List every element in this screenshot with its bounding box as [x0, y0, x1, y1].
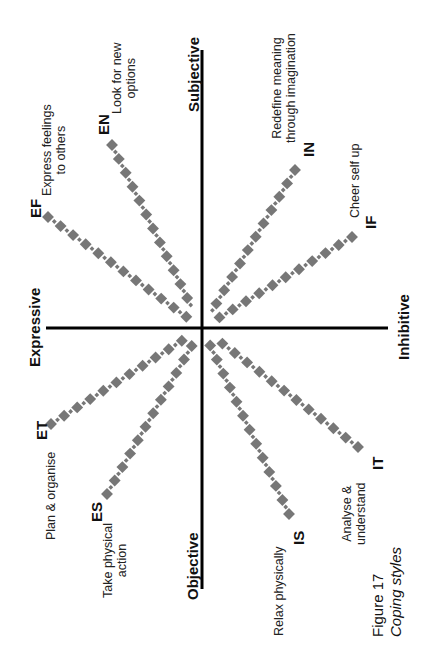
desc-ef: Express feelings to others	[40, 104, 68, 196]
diamond-dot	[258, 217, 270, 229]
small-dot	[250, 434, 255, 439]
small-dot	[244, 420, 249, 425]
diamond-dot	[127, 181, 139, 193]
diamond-dot	[154, 236, 166, 248]
diamond-dot	[155, 394, 167, 406]
diamond-dot	[241, 356, 253, 368]
small-dot	[120, 163, 125, 168]
small-dot	[263, 374, 268, 379]
small-dot	[147, 219, 152, 224]
diamond-dot	[276, 494, 288, 506]
small-dot	[94, 392, 99, 397]
small-dot	[224, 311, 229, 316]
diamond-dot	[306, 255, 318, 267]
diamond-dot	[263, 466, 275, 478]
small-dot	[273, 201, 278, 206]
small-dot	[250, 295, 255, 300]
small-dot	[181, 289, 186, 294]
diamond-dot	[253, 366, 265, 378]
diamond-dot	[242, 244, 254, 256]
small-dot	[116, 471, 121, 476]
desc-es-line2: action	[115, 523, 129, 598]
diamond-dot	[253, 287, 265, 299]
small-dot	[140, 283, 145, 288]
desc-ef-line1: Express feelings	[40, 104, 54, 196]
small-dot	[210, 308, 215, 313]
diamond-dot	[147, 223, 159, 235]
diamond-dot	[174, 278, 186, 290]
small-dot	[154, 233, 159, 238]
small-dot	[68, 409, 73, 414]
small-dot	[281, 188, 286, 193]
small-dot	[77, 237, 82, 242]
diamond-dot	[290, 394, 302, 406]
desc-en-line2: options	[124, 42, 138, 114]
small-dot	[185, 350, 190, 355]
small-dot	[131, 444, 136, 449]
desc-in-line1: Redefine meaning	[270, 33, 284, 143]
desc-in-line2: through imagination	[284, 33, 298, 143]
diamond-dot	[161, 250, 173, 262]
diamond-dot	[289, 164, 301, 176]
small-dot	[52, 219, 57, 224]
axis-label-expressive: Expressive	[26, 288, 43, 367]
desc-en: Look for new options	[110, 42, 138, 114]
small-dot	[170, 377, 175, 382]
diamond-dot	[117, 265, 129, 277]
small-dot	[264, 462, 269, 467]
desc-in: Redefine meaning through imagination	[270, 33, 298, 143]
small-dot	[300, 402, 305, 407]
diamond-dot	[80, 238, 92, 250]
small-dot	[316, 255, 321, 260]
small-dot	[64, 228, 69, 233]
diamond-dot	[257, 452, 269, 464]
diamond-dot	[124, 448, 136, 460]
axis-label-inhibitive: Inhibitive	[395, 294, 412, 360]
small-dot	[152, 292, 157, 297]
small-dot	[147, 359, 152, 364]
desc-if-line1: Cheer self up	[348, 144, 362, 218]
small-dot	[168, 261, 173, 266]
small-dot	[277, 490, 282, 495]
diamond-dot	[109, 475, 121, 487]
diamond-dot	[293, 263, 305, 275]
diamond-dot	[340, 432, 352, 444]
diamond-dot	[140, 209, 152, 221]
diamond-dot	[244, 424, 256, 436]
small-dot	[161, 247, 166, 252]
diamond-dot	[217, 368, 229, 380]
small-dot	[237, 303, 242, 308]
diamond-dot	[352, 441, 364, 453]
code-in: IN	[300, 142, 317, 157]
small-dot	[337, 430, 342, 435]
small-dot	[155, 404, 160, 409]
diamond-dot	[315, 413, 327, 425]
small-dot	[226, 346, 231, 351]
diamond-dot	[333, 239, 345, 251]
small-dot	[162, 391, 167, 396]
small-dot	[120, 376, 125, 381]
diamond-dot	[106, 139, 118, 151]
small-dot	[289, 174, 294, 179]
small-dot	[81, 401, 86, 406]
diamond-dot	[143, 284, 155, 296]
small-dot	[343, 239, 348, 244]
small-dot	[133, 191, 138, 196]
desc-es: Take physical action	[101, 523, 129, 598]
small-dot	[241, 254, 246, 259]
coping-styles-diagram	[0, 0, 431, 669]
diamond-dot	[105, 256, 117, 268]
small-dot	[257, 228, 262, 233]
small-dot	[139, 431, 144, 436]
small-dot	[288, 393, 293, 398]
small-dot	[134, 367, 139, 372]
desc-es-line1: Take physical	[101, 523, 115, 598]
code-en: EN	[95, 114, 112, 135]
diamond-dot	[234, 258, 246, 270]
desc-ef-line2: to others	[54, 104, 68, 196]
diamond-dot	[92, 247, 104, 259]
diamond-dot	[55, 220, 67, 232]
desc-it-line2: understand	[354, 482, 368, 545]
small-dot	[303, 263, 308, 268]
diamond-dot	[280, 271, 292, 283]
